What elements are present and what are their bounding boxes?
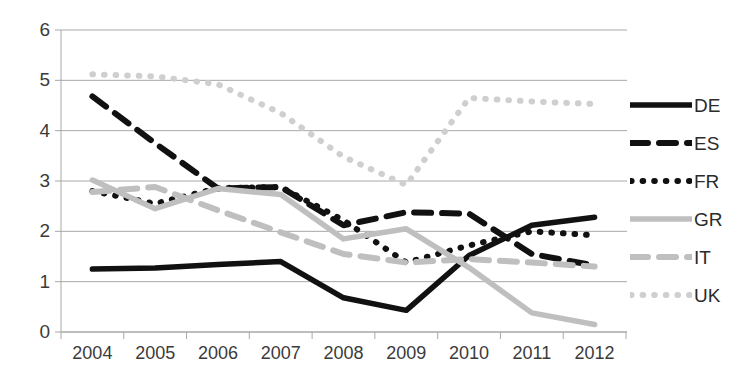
- y-axis-tick-label: 0: [18, 322, 50, 341]
- series-lines: [92, 74, 594, 324]
- legend-item-label: GR: [694, 210, 723, 229]
- y-axis-tick-label: 2: [18, 221, 50, 240]
- line-chart: 6543210 20042005200620072008200920102011…: [0, 0, 749, 390]
- legend-item-label: IT: [694, 248, 711, 267]
- dashed-black-line-key: [630, 136, 692, 150]
- legend-item-uk[interactable]: UK: [630, 276, 749, 314]
- gridlines: [61, 30, 627, 332]
- legend-item-it[interactable]: IT: [630, 238, 749, 276]
- dotted-black-line-key: [630, 174, 692, 188]
- x-axis-tick-label: 2011: [501, 344, 563, 362]
- legend-item-gr[interactable]: GR: [630, 200, 749, 238]
- x-axis-tick-label: 2012: [564, 344, 626, 362]
- legend-item-label: UK: [694, 286, 720, 305]
- x-axis-tick-label: 2005: [124, 344, 186, 362]
- y-axis: [55, 30, 61, 332]
- legend-item-de[interactable]: DE: [630, 86, 749, 124]
- x-axis-tick-label: 2009: [375, 344, 437, 362]
- legend-item-label: DE: [694, 96, 720, 115]
- legend-item-label: ES: [694, 134, 719, 153]
- y-axis-tick-label: 5: [18, 70, 50, 89]
- solid-black-line-key: [630, 98, 692, 112]
- y-axis-tick-label: 6: [18, 20, 50, 39]
- solid-gray-line-key: [630, 212, 692, 226]
- legend-item-es[interactable]: ES: [630, 124, 749, 162]
- x-axis-tick-label: 2006: [187, 344, 249, 362]
- y-axis-tick-label: 1: [18, 272, 50, 291]
- chart-legend: DEESFRGRITUK: [630, 86, 749, 314]
- y-axis-tick-label: 3: [18, 171, 50, 190]
- legend-item-label: FR: [694, 172, 719, 191]
- dotted-gray-line-key: [630, 288, 692, 302]
- x-axis-tick-label: 2010: [438, 344, 500, 362]
- x-axis-tick-label: 2004: [61, 344, 123, 362]
- x-axis-tick-label: 2008: [313, 344, 375, 362]
- x-axis-tick-label: 2007: [250, 344, 312, 362]
- series-line-uk: [92, 74, 594, 185]
- x-axis: [61, 332, 627, 339]
- y-axis-tick-label: 4: [18, 121, 50, 140]
- dashed-gray-line-key: [630, 250, 692, 264]
- legend-item-fr[interactable]: FR: [630, 162, 749, 200]
